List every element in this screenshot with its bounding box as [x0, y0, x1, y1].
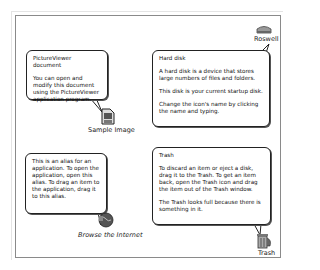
roswell-label[interactable]: Roswell: [254, 35, 279, 43]
balloon-paragraph: Change the icon's name by clicking the n…: [159, 101, 263, 115]
hard-disk-icon: [256, 25, 272, 34]
help-balloon-trash: Trash To discard an item or eject a disk…: [152, 147, 271, 225]
balloon-paragraph: The Trash looks full because there is so…: [159, 199, 264, 213]
trash-icon[interactable]: [256, 232, 273, 249]
browse-internet-label[interactable]: Browse the Internet: [78, 231, 143, 239]
balloon-paragraph: A hard disk is a device that stores larg…: [159, 68, 263, 82]
browse-internet-icon[interactable]: [98, 212, 114, 228]
help-balloon-hard-disk: Hard disk A hard disk is a device that s…: [152, 50, 270, 127]
help-balloon-alias: This is an alias for an application. To …: [25, 153, 107, 214]
roswell-disk-icon[interactable]: [256, 25, 272, 34]
balloon-paragraph: To discard an item or eject a disk, drag…: [159, 165, 264, 193]
globe-alias-icon: [98, 212, 114, 228]
picture-document-icon: [101, 108, 115, 125]
sample-image-icon[interactable]: [101, 108, 115, 125]
balloon-title: Trash: [159, 152, 264, 159]
balloon-body: You can open and modify this document us…: [33, 75, 101, 103]
balloon-title: PictureViewer document: [33, 55, 101, 69]
balloon-title: Hard disk: [159, 55, 263, 62]
balloon-paragraph: This disk is your current startup disk.: [159, 88, 263, 95]
sample-image-label[interactable]: Sample Image: [88, 126, 135, 134]
trash-label[interactable]: Trash: [258, 249, 275, 257]
trash-full-icon: [256, 232, 273, 249]
help-balloon-picture-viewer: PictureViewer document You can open and …: [26, 50, 108, 100]
balloon-body: This is an alias for an application. To …: [32, 158, 100, 200]
